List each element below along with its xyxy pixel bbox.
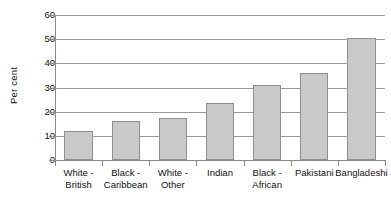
bar[interactable]	[159, 118, 187, 160]
bar-chart: Per cent 0102030405060 White -BritishBla…	[0, 0, 391, 203]
bar-slot	[244, 15, 291, 160]
gridline-0	[55, 160, 385, 161]
category-tick	[291, 160, 292, 166]
category-tick	[102, 160, 103, 166]
bar[interactable]	[112, 121, 140, 160]
x-axis-labels: White -BritishBlack -CaribbeanWhite -Oth…	[55, 167, 385, 201]
x-axis-label-line2: Other	[143, 179, 202, 191]
category-tick	[149, 160, 150, 166]
x-axis-label: Bangladeshi	[332, 167, 391, 179]
y-axis-ticks: 0102030405060	[0, 0, 55, 203]
bar[interactable]	[253, 85, 281, 160]
x-axis-label-line1: White -	[64, 167, 94, 178]
x-axis-label-line1: Indian	[207, 167, 233, 178]
x-axis-label-line1: Black -	[111, 167, 140, 178]
x-axis-label-line1: Black -	[253, 167, 282, 178]
category-tick	[244, 160, 245, 166]
bar-slot	[55, 15, 102, 160]
bar-slot	[338, 15, 385, 160]
x-axis-label-line2: African	[238, 179, 297, 191]
x-axis-label-line1: White -	[158, 167, 188, 178]
category-tick	[196, 160, 197, 166]
bar-slot	[291, 15, 338, 160]
bar[interactable]	[64, 131, 92, 160]
bar[interactable]	[347, 38, 375, 160]
category-tick-edge	[55, 160, 56, 166]
bar-slot	[196, 15, 243, 160]
x-axis-label-line1: Pakistani	[295, 167, 334, 178]
category-tick	[338, 160, 339, 166]
x-axis-label-line1: Bangladeshi	[335, 167, 387, 178]
bar[interactable]	[206, 103, 234, 160]
plot-area	[55, 15, 385, 160]
bar[interactable]	[300, 73, 328, 160]
bar-slot	[102, 15, 149, 160]
bar-slot	[149, 15, 196, 160]
category-tick-edge	[385, 160, 386, 166]
